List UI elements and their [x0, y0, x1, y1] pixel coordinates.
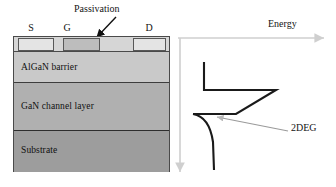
conduction-band-barrier-profile	[193, 62, 276, 114]
figure-root: Passivation S G D AlGaN barrier GaN cha	[0, 0, 336, 187]
layer-gan-channel: GaN channel layer	[14, 83, 169, 131]
terminal-label-source: S	[24, 22, 38, 33]
layer-label-gan: GaN channel layer	[21, 101, 94, 111]
passivation-callout-label: Passivation	[74, 3, 120, 14]
layer-passivation	[14, 37, 169, 52]
layer-label-algan: AlGaN barrier	[21, 62, 77, 72]
band-diagram-panel: Energy 2DEG	[176, 0, 336, 187]
conduction-band-well-profile	[193, 114, 214, 170]
layer-algan-barrier: AlGaN barrier	[14, 52, 169, 83]
contact-drain-electrode	[133, 38, 166, 51]
contact-gate-electrode	[63, 38, 100, 51]
layer-substrate: Substrate	[14, 131, 169, 172]
band-diagram-svg	[176, 0, 336, 187]
layer-label-substrate: Substrate	[21, 145, 57, 155]
contact-source-electrode	[18, 38, 54, 51]
device-layer-stack: AlGaN barrier GaN channel layer Substrat…	[13, 36, 170, 172]
terminal-label-gate: G	[60, 22, 74, 33]
twodeg-pointer-arrow	[217, 117, 288, 131]
device-cross-section-panel: Passivation S G D AlGaN barrier GaN cha	[0, 0, 180, 187]
passivation-arrow	[97, 17, 116, 37]
terminal-label-drain: D	[142, 22, 156, 33]
